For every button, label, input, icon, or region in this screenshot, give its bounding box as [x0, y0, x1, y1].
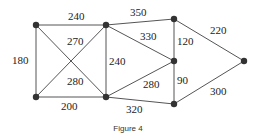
edge-weight-label: 300	[210, 85, 227, 97]
edge-weight-label: 90	[177, 74, 189, 86]
edge-weight-label: 270	[67, 35, 84, 47]
graph-node-E	[241, 58, 247, 64]
edge-weight-label: 200	[61, 100, 78, 112]
edge-weight-label: 330	[140, 30, 157, 42]
edge-weight-label: 180	[12, 54, 29, 66]
graph-node-H	[171, 101, 177, 107]
edge-weight-label: 350	[130, 6, 147, 18]
edge-weight-label: 120	[177, 35, 194, 47]
graph-node-F	[33, 94, 39, 100]
edge-B-C	[106, 19, 174, 25]
graph-node-D	[171, 58, 177, 64]
edge-weight-label: 240	[109, 55, 126, 67]
graph-node-C	[171, 16, 177, 22]
edge-weight-label: 280	[67, 75, 84, 87]
figure-caption: Figure 4	[113, 124, 143, 133]
graph-node-B	[103, 22, 109, 28]
edge-weight-label: 240	[68, 10, 85, 22]
edge-weight-label: 280	[143, 78, 160, 90]
weighted-graph-diagram: 2401802702802402003503301202202809032030…	[0, 0, 260, 138]
edge-weight-label: 220	[210, 24, 227, 36]
graph-node-A	[33, 22, 39, 28]
edge-weight-label: 320	[126, 103, 143, 115]
graph-node-G	[103, 94, 109, 100]
